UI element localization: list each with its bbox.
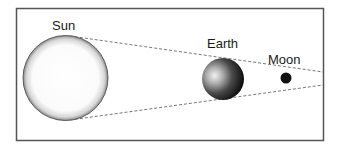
earth-circle <box>202 58 244 100</box>
moon-label: Moon <box>268 52 301 67</box>
sun-earth-moon-diagram: Sun Earth Moon <box>0 0 338 146</box>
sun-label: Sun <box>52 18 75 33</box>
sun-circle <box>23 36 108 121</box>
earth-label: Earth <box>207 36 238 51</box>
moon-circle <box>281 73 292 84</box>
